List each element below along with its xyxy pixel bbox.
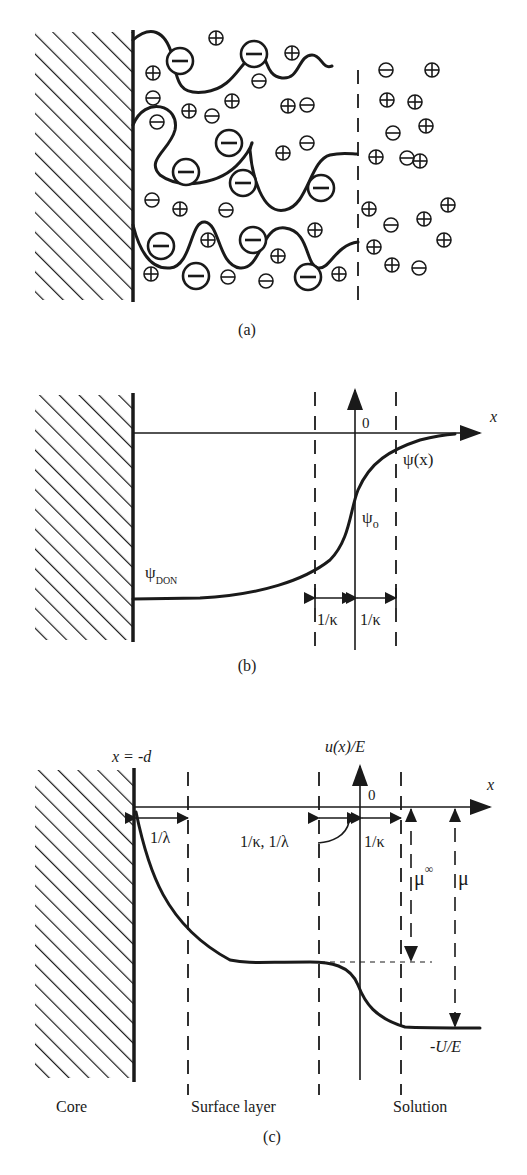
caption-a: (a) (238, 321, 256, 339)
kappa-lambda-leader (318, 822, 349, 843)
panel-c: x = -d u(x)/E x 0 1/λ 1/κ, 1/λ 1/κ μ∞ (35, 738, 494, 1146)
psi-x-label: ψ(x) (403, 450, 433, 469)
psi-don-label: ψDON (145, 563, 177, 586)
caption-b: (b) (238, 657, 257, 675)
mu-infinity-label: μ∞ (414, 862, 433, 890)
panel-a: (a) (35, 30, 455, 339)
wall-position-label: x = -d (111, 748, 152, 765)
region-solution: Solution (393, 1098, 447, 1115)
debye-length-left: 1/κ (317, 611, 338, 628)
lambda-left-label: 1/λ (150, 829, 170, 846)
mu-label: μ (458, 867, 469, 890)
caption-c: (c) (263, 1128, 281, 1146)
y-axis-label: u(x)/E (325, 738, 365, 756)
x-axis-label: x (486, 776, 494, 793)
mu-infinity-arrow (404, 946, 418, 962)
origin-label: 0 (368, 787, 376, 803)
region-core: Core (56, 1098, 87, 1115)
core-hatch (35, 770, 133, 1078)
figure-canvas: (a) x 0 1/κ 1/κ ψ(x) ψo ψDON (b) x = -d … (0, 0, 527, 1175)
x-axis-label: x (489, 408, 497, 425)
core-hatch (35, 395, 133, 640)
minus-u-over-e-label: -U/E (430, 1038, 461, 1055)
kappa-right-label: 1/κ (364, 833, 385, 850)
psi-o-label: ψo (362, 508, 379, 531)
panel-b: x 0 1/κ 1/κ ψ(x) ψo ψDON (b) (35, 390, 497, 675)
polymer-chain-1 (133, 32, 332, 93)
core-hatch (35, 32, 133, 300)
kappa-lambda-label: 1/κ, 1/λ (240, 833, 289, 850)
mu-arrow (449, 1013, 461, 1028)
region-surface-layer: Surface layer (191, 1098, 277, 1116)
debye-length-right: 1/κ (360, 611, 381, 628)
origin-label: 0 (362, 415, 370, 431)
